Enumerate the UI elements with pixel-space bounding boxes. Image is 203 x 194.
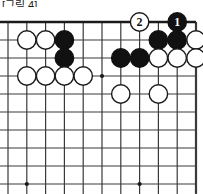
white-stone	[36, 31, 54, 49]
stone-black[interactable]	[168, 31, 186, 49]
move-stone-2[interactable]: 2	[130, 13, 148, 31]
star-point	[100, 74, 104, 78]
stone-white[interactable]	[55, 67, 73, 85]
white-stone	[74, 67, 92, 85]
stone-white[interactable]	[187, 49, 203, 67]
stone-white[interactable]	[149, 85, 167, 103]
stone-black[interactable]	[130, 49, 148, 67]
stone-white[interactable]	[36, 67, 54, 85]
move-number-label: 2	[137, 15, 143, 29]
move-stone-1[interactable]: 1	[168, 13, 186, 31]
star-point	[25, 182, 29, 186]
go-board[interactable]: 21	[0, 9, 203, 194]
stone-white[interactable]	[18, 67, 36, 85]
black-stone	[130, 49, 148, 67]
move-number-label: 1	[174, 15, 180, 29]
black-stone	[55, 31, 73, 49]
stone-black[interactable]	[55, 49, 73, 67]
stone-white[interactable]	[112, 85, 130, 103]
stone-white[interactable]	[168, 49, 186, 67]
white-stone	[149, 85, 167, 103]
stone-white[interactable]	[18, 31, 36, 49]
black-stone	[112, 49, 130, 67]
white-stone	[187, 49, 203, 67]
white-stone	[18, 67, 36, 85]
white-stone	[168, 49, 186, 67]
stone-black[interactable]	[55, 31, 73, 49]
figure-caption: [그림 4]	[2, 0, 37, 7]
stone-white[interactable]	[187, 31, 203, 49]
stone-white[interactable]	[149, 49, 167, 67]
go-board-canvas[interactable]: 21	[0, 9, 203, 194]
white-stone	[112, 85, 130, 103]
white-stone	[55, 67, 73, 85]
black-stone	[168, 31, 186, 49]
stone-white[interactable]	[74, 67, 92, 85]
white-stone	[18, 31, 36, 49]
star-point	[138, 182, 142, 186]
white-stone	[187, 31, 203, 49]
black-stone	[149, 31, 167, 49]
white-stone	[36, 67, 54, 85]
stone-white[interactable]	[36, 31, 54, 49]
stone-black[interactable]	[112, 49, 130, 67]
stone-black[interactable]	[149, 31, 167, 49]
black-stone	[55, 49, 73, 67]
white-stone	[149, 49, 167, 67]
